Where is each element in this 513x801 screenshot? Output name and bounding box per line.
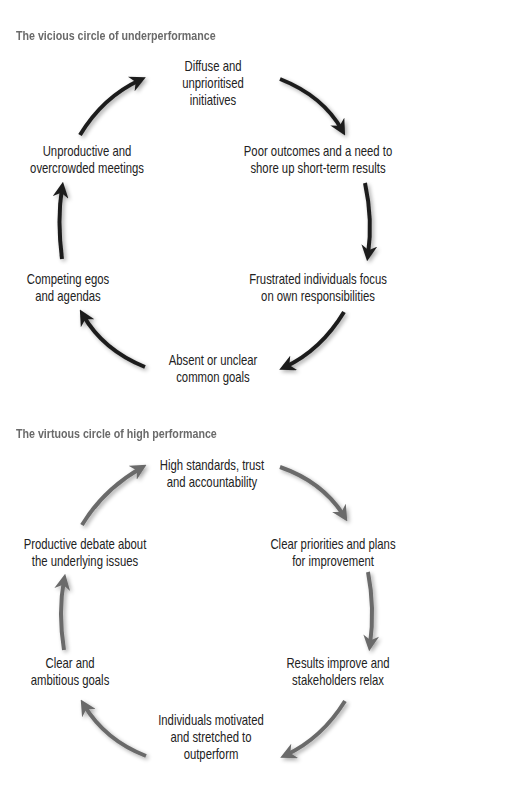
arrow-icon	[286, 701, 345, 755]
arrow-icon	[80, 80, 140, 135]
arrows-layer	[0, 0, 513, 801]
arrow-icon	[84, 705, 146, 756]
arrow-icon	[368, 572, 372, 645]
arrow-icon	[365, 183, 370, 255]
virtuous-arrows	[61, 467, 372, 756]
arrow-icon	[83, 315, 145, 367]
arrow-icon	[285, 312, 344, 367]
arrow-icon	[280, 467, 344, 516]
arrow-icon	[61, 580, 64, 650]
arrow-icon	[82, 468, 141, 525]
arrow-icon	[60, 188, 63, 259]
vicious-arrows	[60, 79, 370, 367]
arrow-icon	[280, 79, 342, 130]
